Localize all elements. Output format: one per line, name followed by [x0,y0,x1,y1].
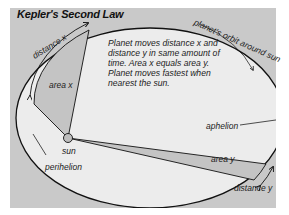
diagram-title: Kepler's Second Law [17,8,123,20]
sun-label: sun [62,147,76,156]
area-y-label: area y [211,155,235,164]
area-x-label: area x [49,81,73,90]
distance-y-label: distance y [234,184,272,193]
description-text: Planet moves distance x and distance y i… [108,38,220,88]
sun-icon [64,134,73,143]
perihelion-label: perihelion [45,163,82,172]
aphelion-label: aphelion [206,122,238,131]
